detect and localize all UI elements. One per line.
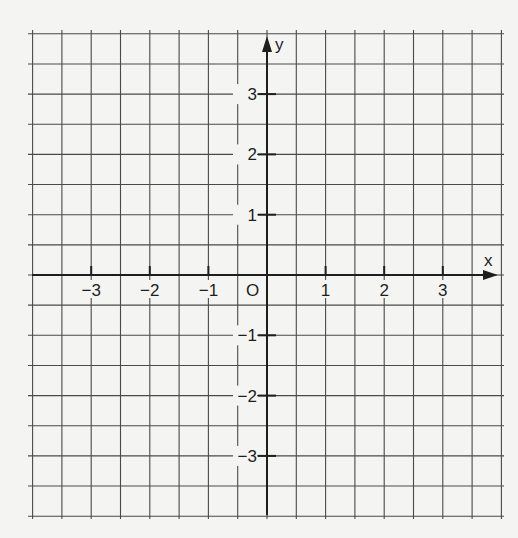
y-axis-label: y [275,35,284,54]
y-tick-label: −3 [238,447,257,466]
coordinate-plane: −3−2−1123−3−2−1123 x y O [0,0,518,538]
axis-labels: x y O [243,35,493,300]
axes [32,36,498,515]
y-tick-label: 1 [248,206,257,225]
x-axis-label: x [484,251,493,270]
x-tick-label: 3 [438,281,447,300]
y-tick-label: 2 [248,145,257,164]
x-axis-arrow-icon [483,270,498,280]
y-tick-label: −2 [238,387,257,406]
x-tick-label: 2 [379,281,388,300]
y-tick-label: −1 [238,326,257,345]
x-tick-label: −2 [140,281,159,300]
x-tick-label: 1 [321,281,330,300]
y-axis-arrow-icon [262,36,272,52]
origin-label: O [246,281,259,300]
x-tick-label: −3 [82,281,101,300]
x-tick-label: −1 [199,281,218,300]
y-tick-label: 3 [248,85,257,104]
